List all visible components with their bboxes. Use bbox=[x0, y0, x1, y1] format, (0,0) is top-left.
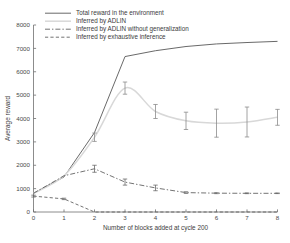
x-tick-label-6: 6 bbox=[215, 214, 219, 221]
legend-label-inferred-by-adlin-without-generalization: Inferred by ADLIN without generalization bbox=[76, 25, 189, 33]
y-tick-label-3: 3000 bbox=[16, 138, 30, 145]
y-tick-label-6: 6000 bbox=[16, 68, 30, 75]
y-tick-label-7: 7000 bbox=[16, 45, 30, 52]
line-chart: 0100020003000400050006000700080000123456… bbox=[0, 0, 290, 243]
y-tick-label-5: 5000 bbox=[16, 91, 30, 98]
legend-label-inferred-by-adlin: Inferred by ADLIN bbox=[76, 17, 127, 25]
series-line-inferred-by-adlin bbox=[34, 88, 278, 194]
y-tick-label-1: 1000 bbox=[16, 185, 30, 192]
x-tick-label-1: 1 bbox=[62, 214, 66, 221]
x-tick-label-0: 0 bbox=[32, 214, 36, 221]
x-tick-label-4: 4 bbox=[154, 214, 158, 221]
x-tick-label-5: 5 bbox=[184, 214, 188, 221]
chart-figure: 0100020003000400050006000700080000123456… bbox=[0, 0, 290, 243]
y-tick-label-0: 0 bbox=[27, 208, 31, 215]
x-tick-label-3: 3 bbox=[123, 214, 127, 221]
x-axis-title: Number of blocks added at cycle 200 bbox=[103, 224, 209, 232]
y-axis-title: Average reward bbox=[4, 96, 12, 141]
x-tick-label-2: 2 bbox=[93, 214, 97, 221]
legend-label-inferred-by-exhaustive-inference: Inferred by exhaustive inference bbox=[76, 33, 166, 41]
y-tick-label-2: 2000 bbox=[16, 161, 30, 168]
y-tick-label-4: 4000 bbox=[16, 115, 30, 122]
legend-label-total-reward-in-the-environment: Total reward in the environment bbox=[76, 9, 164, 16]
x-tick-label-8: 8 bbox=[276, 214, 280, 221]
x-tick-label-7: 7 bbox=[245, 214, 249, 221]
y-tick-label-8: 8000 bbox=[16, 21, 30, 28]
